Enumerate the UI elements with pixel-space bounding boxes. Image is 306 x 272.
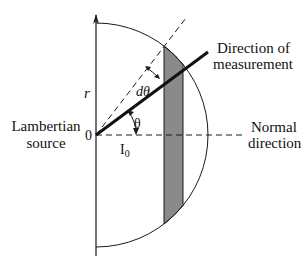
normal-label-line2: direction <box>248 135 302 151</box>
normal-label-line1: Normal <box>251 119 297 135</box>
intensity-label: I0 <box>120 142 130 159</box>
radius-label: r <box>84 85 90 101</box>
measurement-direction-line <box>96 52 208 135</box>
theta-label: θ <box>134 116 141 131</box>
lambertian-diagram: r dθ θ 0 I0 Lambertian source Direction … <box>0 0 306 272</box>
measurement-label-line2: measurement <box>213 56 294 72</box>
dtheta-label: dθ <box>136 84 150 99</box>
measurement-label-line1: Direction of <box>217 40 290 56</box>
source-label-line2: source <box>26 135 65 151</box>
origin-label: 0 <box>85 128 92 143</box>
source-label-line1: Lambertian <box>11 118 81 134</box>
